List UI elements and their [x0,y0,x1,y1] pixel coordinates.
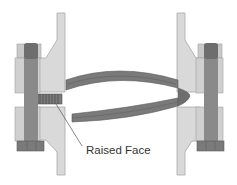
right-bolt [196,43,224,151]
gasket-ring [66,71,190,122]
raised-face-serrations [40,94,58,104]
raised-face-label: Raised Face [86,144,151,156]
flange-joint-diagram: Raised Face [0,0,237,185]
